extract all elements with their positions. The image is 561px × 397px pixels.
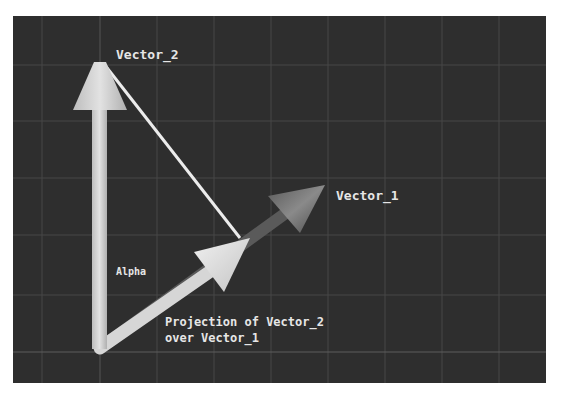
- projection-label: Projection of Vector_2 over Vector_1: [165, 314, 324, 346]
- projection-label-line1: Projection of Vector_2: [165, 314, 324, 330]
- vector-2-label: Vector_2: [116, 47, 179, 62]
- projection-label-line2: over Vector_1: [165, 330, 324, 346]
- alpha-label: Alpha: [116, 266, 146, 277]
- vector-1-label: Vector_1: [336, 188, 399, 203]
